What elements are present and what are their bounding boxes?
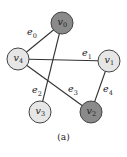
edge-label-e2: e2	[32, 84, 42, 98]
edge-label-e1: e1	[82, 47, 92, 61]
node-v4: v4	[7, 48, 29, 70]
node-v1: v1	[98, 50, 120, 72]
nodes-group: v0v1v2v3v4	[7, 12, 120, 123]
edge-e1	[18, 59, 109, 61]
edge-label-e4: e4	[103, 83, 113, 97]
figure-caption: (a)	[57, 132, 69, 142]
edge-e2	[40, 23, 62, 112]
edge-label-e0: e0	[27, 26, 37, 40]
node-v0: v0	[51, 12, 73, 34]
node-v3: v3	[29, 101, 51, 123]
edge-label-e3: e3	[68, 83, 78, 97]
edge-e3	[18, 59, 91, 112]
node-v2: v2	[80, 101, 102, 123]
graph-figure: v0v1v2v3v4 e0e1e2e3e4 (a)	[0, 0, 127, 157]
